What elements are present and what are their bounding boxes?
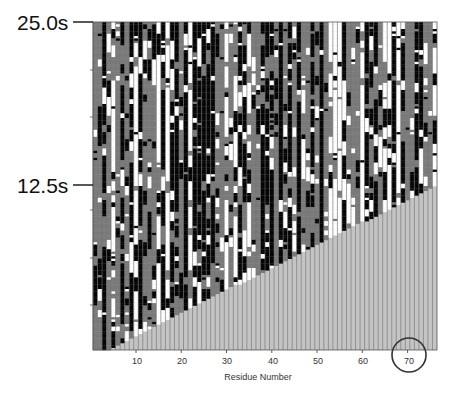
y-tick-label-top: 25.0s (17, 12, 68, 33)
chart-figure: 25.0s 12.5s 10 20 30 40 50 60 70 Residue… (0, 0, 453, 396)
x-tick-label-20: 20 (177, 356, 187, 366)
x-axis-label: Residue Number (224, 372, 292, 382)
x-tick-label-30: 30 (222, 356, 232, 366)
heatmap-cells (93, 22, 437, 350)
y-tick-label-mid: 12.5s (17, 175, 68, 196)
y-minor-ticks (90, 70, 93, 305)
x-tick-label-10: 10 (132, 356, 142, 366)
x-ticks (136, 350, 408, 353)
x-tick-label-60: 60 (358, 356, 368, 366)
x-tick-label-40: 40 (268, 356, 278, 366)
heatmap-plot (0, 0, 453, 396)
x-tick-label-50: 50 (313, 356, 323, 366)
x-tick-label-70: 70 (404, 356, 414, 366)
